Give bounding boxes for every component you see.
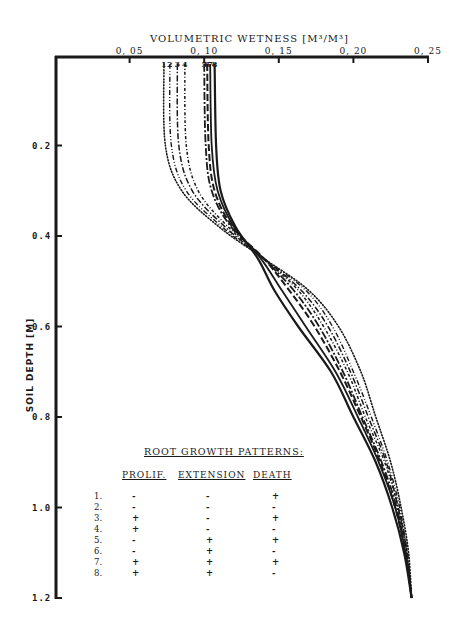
legend-cell-prolif: - xyxy=(132,491,136,501)
y-axis-title: SOIL DEPTH [M] xyxy=(25,318,35,413)
legend-cell-extension: - xyxy=(206,491,210,501)
legend-cell-death: + xyxy=(272,535,279,545)
curve-label-2: 2 xyxy=(167,59,173,69)
legend-cell-extension: + xyxy=(206,546,213,556)
legend-cell-extension: - xyxy=(206,513,210,523)
x-tick-label: 0, 10 xyxy=(190,46,218,56)
curve-label-8: 8 xyxy=(212,59,218,69)
legend-cell-death: + xyxy=(272,491,279,501)
curve-label-1: 1 xyxy=(161,59,167,69)
legend-row-number: 6. xyxy=(94,546,102,556)
legend-row: 5.-++ xyxy=(106,535,306,546)
legend-row: 3.+-+ xyxy=(106,513,306,524)
legend-cell-prolif: - xyxy=(132,535,136,545)
legend-row: 6.-+- xyxy=(106,546,306,557)
legend-row: 1.--+ xyxy=(106,491,306,502)
legend-row-number: 5. xyxy=(94,535,102,545)
legend-row-number: 3. xyxy=(94,513,102,523)
legend-cell-prolif: + xyxy=(132,513,139,523)
legend-cell-death: - xyxy=(272,546,276,556)
legend-row: 8.++- xyxy=(106,568,306,579)
legend-cell-extension: + xyxy=(206,557,213,567)
legend-row-number: 1. xyxy=(94,491,102,501)
legend-header-extension: EXTENSION xyxy=(178,470,245,480)
x-tick-label: 0, 15 xyxy=(265,46,293,56)
legend-cell-extension: + xyxy=(206,535,213,545)
legend-cell-death: + xyxy=(272,513,279,523)
legend-header-death: DEATH xyxy=(253,470,292,480)
legend-cell-death: - xyxy=(272,502,276,512)
y-tick-label: 0.2 xyxy=(32,141,51,151)
y-tick-label: 0.8 xyxy=(32,412,51,422)
legend-row-number: 8. xyxy=(94,568,102,578)
legend-cell-prolif: + xyxy=(132,568,139,578)
legend-cell-death: - xyxy=(272,568,276,578)
legend-header-prolif: PROLIF. xyxy=(122,470,166,480)
legend-cell-prolif: - xyxy=(132,546,136,556)
legend-cell-prolif: - xyxy=(132,502,136,512)
y-tick-label: 1.2 xyxy=(32,593,51,603)
legend-row: 2.--- xyxy=(106,502,306,513)
legend-cell-death: - xyxy=(272,524,276,534)
legend-cell-prolif: + xyxy=(132,524,139,534)
legend-cell-death: + xyxy=(272,557,279,567)
x-tick-label: 0, 05 xyxy=(116,46,144,56)
legend-cell-extension: + xyxy=(206,568,213,578)
y-tick-label: 0.4 xyxy=(32,231,51,241)
legend-row: 7.+++ xyxy=(106,557,306,568)
y-tick-label: 1.0 xyxy=(32,503,51,513)
legend-row-number: 7. xyxy=(94,557,102,567)
x-axis-title: VOLUMETRIC WETNESS [M³/M³] xyxy=(150,33,349,44)
x-tick-label: 0, 25 xyxy=(414,46,442,56)
x-tick-label: 0, 20 xyxy=(339,46,367,56)
legend-cell-extension: - xyxy=(206,524,210,534)
legend-cell-prolif: + xyxy=(132,557,139,567)
legend-cell-extension: - xyxy=(206,502,210,512)
curve-label-3: 3 xyxy=(175,59,181,69)
legend-row: 4.+-- xyxy=(106,524,306,535)
legend-row-number: 4. xyxy=(94,524,102,534)
legend-title: ROOT GROWTH PATTERNS: xyxy=(144,446,304,457)
legend-row-number: 2. xyxy=(94,502,102,512)
curve-label-4: 4 xyxy=(182,59,188,69)
